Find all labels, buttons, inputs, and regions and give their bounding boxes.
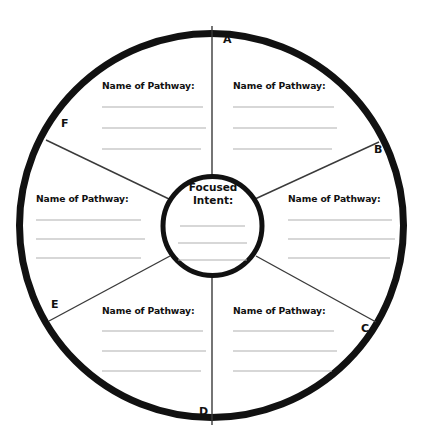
segment-b-pathway-label: Name of Pathway: (288, 193, 381, 204)
point-label-c: C (361, 322, 369, 335)
point-label-f: F (61, 117, 69, 130)
segment-e-pathway-label: Name of Pathway: (36, 193, 129, 204)
point-label-a: A (223, 33, 232, 46)
focused-intent-line-2: Intent: (177, 194, 249, 207)
segment-f-pathway-label: Name of Pathway: (102, 80, 195, 91)
focused-intent-title: Focused Intent: (177, 181, 249, 207)
point-label-e: E (51, 298, 59, 311)
focused-intent-line-1: Focused (177, 181, 249, 194)
point-label-b: B (374, 143, 382, 156)
segment-a-pathway-label: Name of Pathway: (233, 80, 326, 91)
point-label-d: D (199, 405, 208, 418)
pathways-wheel-worksheet: Name of Pathway: Name of Pathway: Name o… (0, 0, 427, 445)
wheel-diagram (0, 0, 427, 445)
segment-d-pathway-label: Name of Pathway: (102, 305, 195, 316)
segment-c-pathway-label: Name of Pathway: (233, 305, 326, 316)
